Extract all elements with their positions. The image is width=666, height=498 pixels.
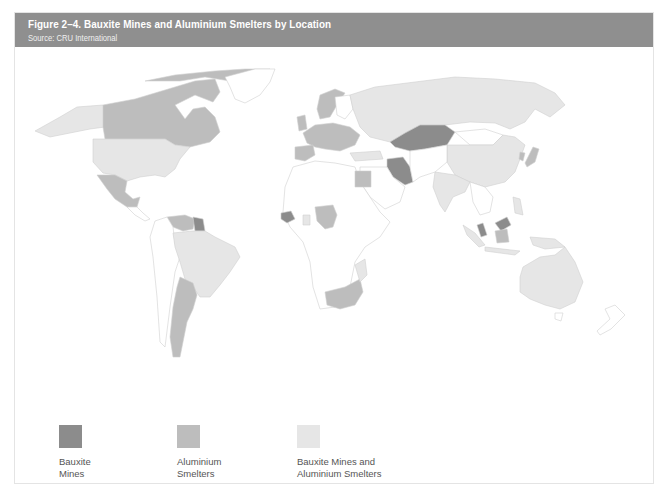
region-papua: [530, 237, 565, 249]
region-turkey: [350, 151, 383, 161]
legend-swatch: [59, 425, 82, 448]
region-united-kingdom: [297, 115, 307, 131]
region-central-america: [127, 207, 150, 221]
legend-swatch: [177, 425, 200, 448]
region-alaska: [35, 105, 107, 137]
figure-frame: Figure 2–4. Bauxite Mines and Aluminium …: [14, 12, 654, 484]
region-argentina: [170, 277, 197, 357]
region-malaysia-peninsula: [477, 223, 487, 237]
region-southeast-asia: [470, 182, 493, 215]
region-spain: [295, 145, 315, 161]
region-indonesia: [495, 229, 509, 243]
region-philippines: [513, 197, 523, 215]
region-finland: [335, 95, 353, 119]
region-java: [485, 247, 520, 255]
legend-item-bauxite-mines: Bauxite Mines: [59, 425, 169, 480]
figure-source: Source: CRU International: [28, 33, 117, 43]
legend-item-both: Bauxite Mines and Aluminium Smelters: [297, 425, 407, 480]
title-bar: Figure 2–4. Bauxite Mines and Aluminium …: [15, 13, 653, 47]
region-korea: [519, 152, 525, 161]
legend-swatch: [297, 425, 320, 448]
region-australia: [520, 247, 583, 309]
legend-label: Aluminium Smelters: [177, 456, 287, 480]
region-japan: [525, 147, 539, 167]
region-ghana: [303, 215, 310, 225]
legend-item-aluminium-smelters: Aluminium Smelters: [177, 425, 287, 480]
region-canada: [103, 79, 220, 147]
legend-label: Bauxite Mines and Aluminium Smelters: [297, 456, 407, 480]
map-legend: Bauxite Mines Aluminium Smelters Bauxite…: [15, 425, 653, 485]
legend-label: Bauxite Mines: [59, 456, 169, 480]
region-mozambique: [355, 259, 367, 282]
region-malaysia-borneo: [495, 217, 511, 231]
region-new-zealand: [597, 305, 625, 335]
region-guyana-suriname: [193, 217, 205, 231]
region-mexico: [97, 175, 140, 207]
region-tasmania: [555, 313, 563, 321]
figure-title: Figure 2–4. Bauxite Mines and Aluminium …: [28, 18, 331, 30]
world-map: [15, 47, 653, 407]
region-egypt: [355, 171, 371, 187]
